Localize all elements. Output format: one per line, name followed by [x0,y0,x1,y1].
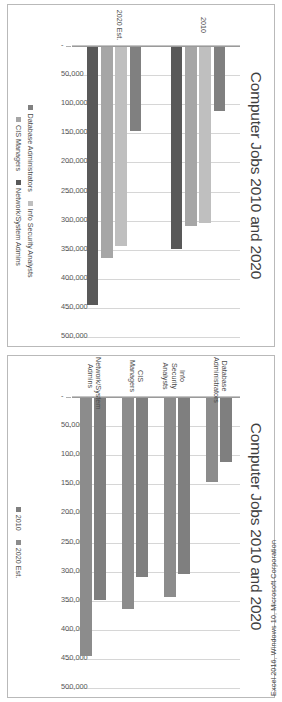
rotated-page-stage: Excel 2016, Windows 10, Microsoft Corpor… [0,0,282,702]
axis-tick-label: 100,000 [61,98,88,107]
category-label: Info Security Analysts [161,357,186,395]
axis-tick-label: - [61,40,63,49]
chart-by-year-plot: 500,000450,000400,000350,000300,000250,0… [72,45,240,336]
bar [171,47,182,249]
bar [214,47,225,111]
bar [130,47,141,131]
gridline [72,337,240,338]
bar [178,398,189,574]
axis-tick-label: - [61,391,63,400]
legend-swatch-icon [16,180,21,185]
category-label: Network/System Admins [85,357,102,395]
legend-swatch-icon [28,105,33,110]
legend-row: 20102020 Est. [14,396,23,689]
chart-by-year: Computer Jobs 2010 and 2020 500,000450,0… [7,4,275,347]
bar [206,398,217,482]
legend-label: 2010 [14,515,23,531]
category-label: 2010 [199,6,207,44]
legend-row: CIS ManagersNetwork/System Admins [14,45,23,338]
axis-tick-label: 50,000 [61,69,84,78]
legend-item[interactable]: Network/System Admins [14,180,23,266]
bar [87,47,98,305]
category-label: 2020 Est. [115,6,123,44]
legend-row: Database AdministratorsInfo Security Ana… [26,45,35,338]
bar [80,398,91,656]
legend-item[interactable]: CIS Managers [14,117,23,171]
bar [220,398,231,462]
gridline [72,688,240,689]
chart-by-year-legend: Database AdministratorsInfo Security Ana… [14,45,35,338]
category-label: Database Administrators [211,357,228,395]
axis-tick-label: 350,000 [61,244,88,253]
axis-tick-label: 300,000 [61,215,88,224]
gridline [72,659,240,660]
document-page: Excel 2016, Windows 10, Microsoft Corpor… [0,0,282,702]
bar [122,398,133,609]
legend-item[interactable]: 2010 [14,507,23,531]
legend-label: Info Security Analysts [26,209,35,278]
legend-label: Database Administrators [26,113,35,191]
bar [185,47,196,226]
axis-tick-label: 250,000 [61,186,88,195]
axis-tick-label: 450,000 [61,302,88,311]
axis-tick-label: 200,000 [61,156,88,165]
legend-item[interactable]: Database Administrators [26,105,35,191]
bar [115,47,126,246]
chart-by-occupation-plot: 500,000450,000400,000350,000300,000250,0… [72,396,240,687]
legend-item[interactable]: Info Security Analysts [26,201,35,278]
chart-by-occupation-legend: 20102020 Est. [14,396,23,689]
gridline [72,308,240,309]
axis-tick-label: 400,000 [61,273,88,282]
chart-by-occupation-title: Computer Jobs 2010 and 2020 [247,356,265,697]
legend-label: Network/System Admins [14,188,23,266]
axis-tick-label: 150,000 [61,127,88,136]
source-credit: Excel 2016, Windows 10, Microsoft Corpor… [269,540,278,696]
legend-label: CIS Managers [14,125,23,171]
category-label: CIS Managers [127,357,144,395]
chart-by-year-title: Computer Jobs 2010 and 2020 [247,5,265,346]
chart-by-occupation: Computer Jobs 2010 and 2020 500,000450,0… [7,355,275,698]
legend-item[interactable]: 2020 Est. [14,540,23,578]
gridline [72,601,240,602]
axis-tick [66,397,71,398]
bar [136,398,147,577]
bar [94,398,105,600]
gridline [72,630,240,631]
legend-swatch-icon [16,117,21,122]
legend-swatch-icon [28,201,33,206]
legend-swatch-icon [16,507,21,512]
axis-tick-label: 500,000 [61,682,88,691]
axis-tick-label: 500,000 [61,331,88,340]
bar [164,398,175,597]
bar [101,47,112,258]
legend-label: 2020 Est. [14,548,23,578]
axis-tick [66,46,71,47]
bar [199,47,210,223]
legend-swatch-icon [16,540,21,545]
